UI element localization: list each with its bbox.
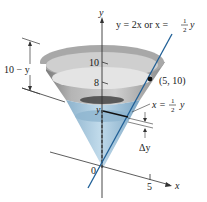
tick-x5-label: 5 — [147, 181, 152, 192]
equation-frac-den: 2 — [183, 26, 187, 34]
delta-arrow-up-icon — [143, 128, 147, 132]
x-axis-front — [50, 152, 170, 185]
point-label: (5, 10) — [159, 75, 186, 87]
equation-main: y = 2x or x = — [116, 19, 168, 30]
slice-eq-num: 1 — [171, 97, 175, 105]
dim-bottom-leader — [22, 88, 40, 94]
x-axis-arrow-icon — [165, 182, 172, 187]
dim-arrow-up-icon — [28, 41, 32, 46]
equation-frac-num: 1 — [183, 17, 187, 25]
point-5-10 — [148, 77, 153, 82]
slice-eq-prefix: x = — [151, 99, 166, 110]
delta-arrow-down-icon — [143, 118, 147, 122]
conical-tank-diagram: y x 5 0 10 8 (5, 10) y = 2x or x = 1 2 y… — [0, 0, 207, 202]
equation-tail: y — [189, 19, 195, 30]
tick-8-label: 8 — [94, 77, 99, 88]
delta-label: Δy — [139, 142, 150, 153]
tick-10-label: 10 — [89, 57, 99, 68]
dim-top-leader — [22, 38, 40, 44]
slice-eq-tail: y — [179, 99, 185, 110]
slice-eq-den: 2 — [171, 106, 175, 114]
x-axis-label: x — [174, 180, 180, 191]
slice-y-label: y — [95, 104, 101, 115]
y-axis-label: y — [98, 7, 104, 18]
dim-label: 10 − y — [4, 64, 30, 75]
